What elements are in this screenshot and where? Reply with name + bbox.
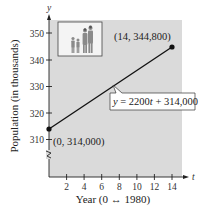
x-tick-2: 2 (64, 182, 69, 192)
x-tick-6: 6 (99, 182, 104, 192)
family-photo-inset (58, 22, 102, 56)
x-tick-10: 10 (132, 182, 142, 192)
point-label-start: (0, 314,000) (53, 136, 105, 148)
y-tick-330: 330 (30, 82, 45, 92)
y-tick-340: 340 (30, 56, 45, 66)
y-axis-arrow-icon (47, 14, 51, 20)
axis-break-icon (46, 150, 52, 159)
x-tick-14: 14 (167, 182, 177, 192)
y-tick-350: 350 (30, 29, 45, 39)
data-point-start (46, 126, 51, 131)
y-tick-320: 320 (30, 109, 45, 119)
x-axis-var: t (192, 172, 195, 182)
point-label-end: (14, 344,800) (114, 31, 171, 43)
x-axis-title: Year (0 ↔ 1980) (76, 193, 151, 206)
equation-text: y = 2200t + 314,000 (112, 96, 198, 107)
data-point-end (169, 44, 174, 49)
y-axis-var: y (46, 3, 52, 13)
y-axis-title: Population (in thousands) (8, 39, 21, 152)
population-chart: y t 350 340 330 320 310 2 4 6 8 10 12 14… (0, 0, 204, 206)
x-axis-arrow-icon (183, 175, 189, 179)
x-tick-12: 12 (150, 182, 160, 192)
x-tick-4: 4 (82, 182, 87, 192)
x-tick-8: 8 (117, 182, 122, 192)
y-tick-310: 310 (30, 135, 45, 145)
